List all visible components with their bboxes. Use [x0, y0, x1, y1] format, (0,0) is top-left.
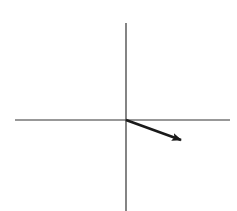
vector-diagram	[0, 0, 237, 211]
vector-arrow	[126, 120, 181, 140]
